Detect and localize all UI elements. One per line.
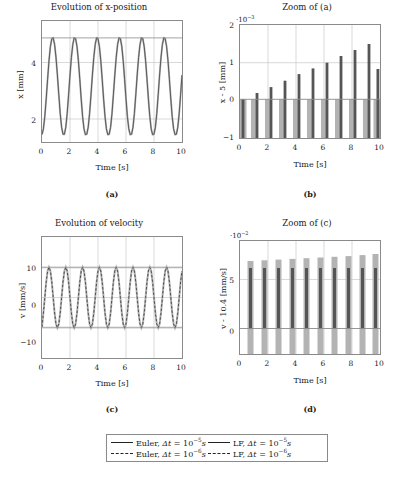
legend-line-dashed-euler-icon bbox=[111, 453, 133, 454]
panel-a-xtick-10: 10 bbox=[171, 147, 191, 156]
panel-d-xtick-6: 6 bbox=[313, 359, 333, 368]
panel-b: Zoom of (a) ·10−3 x - 5 [mm] 2 1 0 −1 bbox=[198, 2, 396, 207]
panel-a-xtick-2: 2 bbox=[59, 147, 79, 156]
legend-row-bottom: Euler, Δt = 10−6s LF, Δt = 10−6s bbox=[111, 448, 323, 459]
panel-c-xtick-10: 10 bbox=[171, 363, 191, 372]
figure-legend: Euler, Δt = 10−5s LF, Δt = 10−5s Euler, … bbox=[106, 434, 328, 462]
panel-a-plot bbox=[41, 20, 183, 143]
panel-c-title: Evolution of velocity bbox=[0, 218, 198, 228]
panel-a-caption: (a) bbox=[82, 189, 142, 199]
figure-root: Evolution of x-position x [mm] 2 4 bbox=[0, 0, 396, 480]
panel-b-ytick-0: 0 bbox=[220, 95, 234, 104]
panel-d-gridlines bbox=[240, 241, 380, 354]
legend-label-lf-1e6: LF, Δt = 10−6s bbox=[230, 448, 293, 459]
panel-d-light-bands bbox=[248, 254, 379, 354]
legend-line-solid-euler-icon bbox=[111, 442, 133, 444]
legend-entry-lf-1e5[interactable]: LF, Δt = 10−5s bbox=[208, 437, 293, 448]
panel-d-xtick-10: 10 bbox=[369, 359, 389, 368]
panel-d-exponent: ·10−2 bbox=[230, 230, 249, 240]
panel-b-ytick-2: 2 bbox=[220, 21, 234, 30]
panel-b-light-bands bbox=[240, 99, 380, 138]
legend-entry-euler-1e6[interactable]: Euler, Δt = 10−6s bbox=[111, 448, 208, 459]
panel-d-canvas bbox=[240, 241, 380, 354]
panel-d: Zoom of (c) ·10−2 v - 10.4 [mm/s] 5 0 bbox=[198, 218, 396, 423]
panel-d-plot bbox=[239, 240, 381, 355]
panel-b-canvas bbox=[240, 25, 380, 138]
panel-c-ytick-neg10: −10 bbox=[12, 338, 36, 347]
panel-d-ytick-5: 5 bbox=[220, 276, 234, 285]
panel-c-caption: (c) bbox=[82, 404, 142, 414]
panel-b-ytick-neg1: −1 bbox=[216, 133, 234, 142]
panel-b-xtick-10: 10 bbox=[369, 143, 389, 152]
panel-b-xtick-8: 8 bbox=[341, 143, 361, 152]
panel-d-xtick-2: 2 bbox=[257, 359, 277, 368]
panel-c-xtick-6: 6 bbox=[115, 363, 135, 372]
panel-c: Evolution of velocity v [mm/s] 10 0 −10 bbox=[0, 218, 198, 423]
panel-d-xtick-4: 4 bbox=[285, 359, 305, 368]
panel-a-ytick-2: 2 bbox=[22, 116, 36, 125]
panel-c-ytick-10: 10 bbox=[18, 264, 36, 273]
panel-c-xlabel: Time [s] bbox=[41, 379, 183, 388]
panel-b-xtick-6: 6 bbox=[313, 143, 333, 152]
panel-b-xlabel: Time [s] bbox=[239, 160, 381, 169]
panel-b-xtick-4: 4 bbox=[285, 143, 305, 152]
panel-d-xlabel: Time [s] bbox=[239, 376, 381, 385]
panel-c-xtick-8: 8 bbox=[143, 363, 163, 372]
panel-a-xtick-4: 4 bbox=[87, 147, 107, 156]
panel-a-gridlines bbox=[42, 21, 182, 142]
panel-c-plot bbox=[41, 236, 183, 359]
panel-a-xlabel: Time [s] bbox=[41, 163, 183, 172]
panel-a-title: Evolution of x-position bbox=[0, 2, 198, 12]
panel-b-title: Zoom of (a) bbox=[218, 2, 396, 12]
legend-line-dashed-lf-icon bbox=[208, 453, 230, 454]
panel-c-ytick-0: 0 bbox=[18, 301, 36, 310]
legend-label-euler-1e5: Euler, Δt = 10−5s bbox=[133, 437, 208, 448]
panel-c-canvas bbox=[42, 237, 182, 358]
panel-b-plot bbox=[239, 24, 381, 139]
panel-a-canvas bbox=[42, 21, 182, 142]
legend-row-top: Euler, Δt = 10−5s LF, Δt = 10−5s bbox=[111, 437, 323, 448]
legend-label-euler-1e6: Euler, Δt = 10−6s bbox=[133, 448, 208, 459]
legend-label-lf-1e5: LF, Δt = 10−5s bbox=[230, 437, 293, 448]
panel-a: Evolution of x-position x [mm] 2 4 bbox=[0, 2, 198, 207]
panel-d-xtick-8: 8 bbox=[341, 359, 361, 368]
panel-c-xtick-4: 4 bbox=[87, 363, 107, 372]
legend-entry-lf-1e6[interactable]: LF, Δt = 10−6s bbox=[208, 448, 293, 459]
panel-d-title: Zoom of (c) bbox=[218, 218, 396, 228]
legend-entry-euler-1e5[interactable]: Euler, Δt = 10−5s bbox=[111, 437, 208, 448]
panel-b-exponent-sup: −3 bbox=[247, 14, 254, 20]
panel-a-xtick-8: 8 bbox=[143, 147, 163, 156]
panel-a-ytick-4: 4 bbox=[22, 59, 36, 68]
panel-d-caption: (d) bbox=[280, 404, 340, 414]
panel-d-ytick-0: 0 bbox=[220, 327, 234, 336]
panel-d-xtick-0: 0 bbox=[229, 359, 249, 368]
panel-b-xtick-0: 0 bbox=[229, 143, 249, 152]
panel-b-caption: (b) bbox=[280, 189, 340, 199]
panel-c-xtick-0: 0 bbox=[31, 363, 51, 372]
panel-c-xtick-2: 2 bbox=[59, 363, 79, 372]
panel-b-xtick-2: 2 bbox=[257, 143, 277, 152]
panel-a-traces bbox=[42, 38, 182, 135]
legend-line-solid-lf-icon bbox=[208, 442, 230, 444]
panel-b-exponent: ·10−3 bbox=[236, 14, 255, 24]
panel-b-ytick-1: 1 bbox=[220, 58, 234, 67]
panel-a-xtick-0: 0 bbox=[31, 147, 51, 156]
panel-a-xtick-6: 6 bbox=[115, 147, 135, 156]
panel-b-ylabel: x - 5 [mm] bbox=[218, 46, 227, 120]
panel-d-exponent-sup: −2 bbox=[241, 230, 248, 236]
